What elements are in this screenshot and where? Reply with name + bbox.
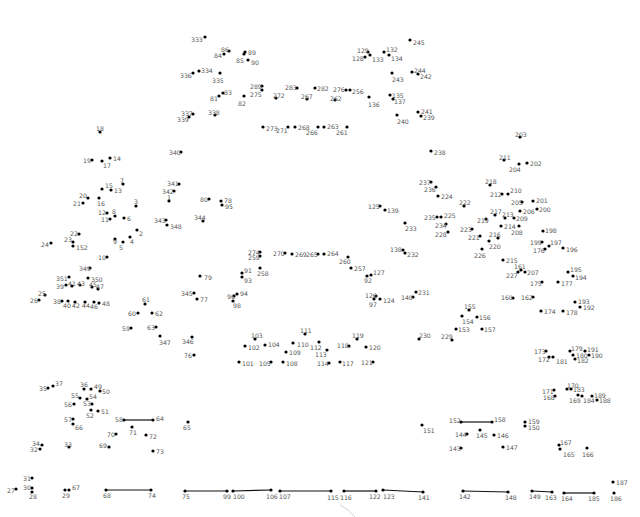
dot-272: 272 — [273, 92, 285, 100]
dot-200: 200 — [535, 206, 550, 213]
dot-73: 73 — [151, 448, 164, 455]
dot-259: 259 — [248, 254, 262, 261]
dot-59: 59 — [122, 325, 133, 332]
dot-146: 146 — [492, 432, 508, 439]
dot-number-label: 226 — [474, 252, 486, 259]
faint-arc-decoration — [340, 505, 355, 517]
dot-number-label: 207 — [527, 269, 539, 276]
dot-marker — [207, 197, 210, 200]
dot-125: 125 — [368, 203, 382, 210]
dot-number-label: 32 — [30, 446, 38, 453]
dot-marker — [322, 125, 325, 128]
dot-77: 77 — [195, 296, 208, 303]
dot-number-label: 187 — [616, 479, 628, 486]
dot-marker — [46, 386, 49, 389]
dot-marker — [49, 241, 52, 244]
dot-number-label: 264 — [327, 250, 339, 257]
dot-108: 108 — [281, 360, 297, 367]
dot-number-label: 99 — [223, 493, 231, 500]
dot-number-label: 233 — [405, 225, 417, 232]
dot-number-label: 156 — [479, 314, 491, 321]
dot-marker — [219, 199, 222, 202]
dot-148: 148 — [505, 490, 517, 501]
dot-224: 224 — [436, 193, 452, 200]
dot-number-label: 150 — [528, 424, 540, 431]
dot-marker — [329, 489, 332, 492]
dot-number-label: 68 — [103, 492, 111, 499]
dot-109: 109 — [284, 349, 300, 356]
dot-number-label: 8 — [112, 208, 116, 215]
dot-283: 283 — [285, 84, 299, 91]
dot-139: 139 — [383, 207, 398, 214]
dot-number-label: 238 — [434, 149, 446, 156]
dot-marker — [122, 418, 125, 421]
dot-number-label: 340 — [169, 149, 181, 156]
dot-number-label: 128 — [352, 55, 364, 62]
dot-257: 257 — [349, 265, 365, 272]
dot-marker — [290, 252, 293, 255]
dot-168: 168 — [543, 394, 557, 401]
dot-marker — [158, 334, 161, 337]
dot-marker — [203, 35, 206, 38]
dot-number-label: 139 — [387, 207, 399, 214]
dot-128: 128 — [352, 55, 367, 62]
dot-221: 221 — [468, 234, 482, 241]
dot-264: 264 — [322, 250, 338, 257]
dot-25: 25 — [38, 290, 47, 297]
dot-number-label: 85 — [236, 57, 244, 64]
dot-number-label: 46 — [90, 303, 98, 310]
dot-207: 207 — [523, 269, 538, 276]
dot-marker — [573, 300, 576, 303]
dot-number-label: 210 — [510, 187, 522, 194]
dot-marker — [293, 125, 296, 128]
dot-number-label: 188 — [599, 397, 611, 404]
dot-178: 178 — [561, 309, 577, 316]
dot-80: 80 — [200, 196, 211, 203]
dot-338: 338 — [208, 109, 220, 117]
dot-number-label: 44 — [82, 302, 90, 309]
dot-number-label: 351 — [56, 275, 68, 282]
dot-number-label: 84 — [214, 52, 222, 59]
dot-number-label: 16 — [97, 200, 105, 207]
dot-number-label: 73 — [156, 448, 164, 455]
dot-number-label: 62 — [155, 310, 163, 317]
dot-154: 154 — [460, 314, 473, 325]
dot-58: 58 — [115, 416, 126, 423]
dot-number-label: 95 — [225, 203, 233, 210]
dot-marker — [40, 443, 43, 446]
dot-number-label: 103 — [251, 332, 263, 339]
dot-number-label: 33 — [64, 441, 72, 448]
dot-number-label: 348 — [170, 223, 182, 230]
dot-number-label: 43 — [77, 280, 85, 287]
dot-182: 182 — [573, 357, 588, 364]
dot-number-label: 154 — [462, 318, 474, 325]
dot-marker — [523, 420, 526, 423]
dot-227: 227 — [506, 270, 520, 279]
dot-number-label: 231 — [418, 289, 430, 296]
dot-196: 196 — [561, 246, 577, 253]
dot-105: 105 — [259, 360, 273, 367]
dot-101: 101 — [237, 360, 253, 367]
dot-85: 85 — [236, 52, 246, 64]
dot-number-label: 224 — [441, 193, 453, 200]
dot-98: 98 — [231, 299, 241, 309]
dot-number-label: 175 — [530, 280, 542, 287]
dot-number-label: 149 — [529, 493, 541, 500]
dot-marker — [220, 203, 223, 206]
dot-162: 162 — [521, 294, 535, 301]
dot-marker — [571, 353, 574, 356]
drawn-segments — [106, 420, 594, 493]
dot-230: 230 — [417, 332, 430, 341]
dot-number-label: 157 — [484, 326, 496, 333]
dot-number-label: 96 — [227, 293, 235, 300]
dot-number-label: 102 — [248, 344, 260, 351]
dot-145: 145 — [476, 428, 488, 439]
dot-number-label: 76 — [184, 352, 192, 359]
dot-marker — [518, 209, 521, 212]
dot-82: 82 — [238, 94, 246, 107]
dot-marker — [191, 71, 194, 74]
segment-123-141 — [383, 490, 423, 492]
dot-number-label: 178 — [566, 309, 578, 316]
dot-276: 276 — [333, 86, 348, 93]
dot-number-label: 213 — [502, 211, 514, 218]
